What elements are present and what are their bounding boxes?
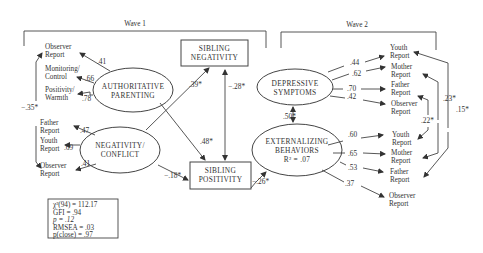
svg-text:−.26*: −.26* bbox=[252, 177, 269, 186]
svg-text:.78: .78 bbox=[82, 94, 92, 103]
svg-text:SIBLING: SIBLING bbox=[205, 166, 237, 175]
svg-text:Report: Report bbox=[389, 200, 409, 208]
svg-text:NEGATIVITY: NEGATIVITY bbox=[191, 53, 239, 62]
svg-text:Report: Report bbox=[391, 71, 411, 79]
svg-text:Observer: Observer bbox=[40, 162, 67, 170]
svg-text:NEGATIVITY/: NEGATIVITY/ bbox=[95, 141, 145, 150]
svg-text:.50*: .50* bbox=[283, 112, 296, 121]
svg-text:Report: Report bbox=[40, 145, 60, 153]
svg-text:EXTERNALIZING: EXTERNALIZING bbox=[265, 137, 328, 146]
svg-text:−.18*: −.18* bbox=[164, 171, 181, 180]
svg-text:.47: .47 bbox=[80, 126, 90, 135]
p-close: p(close) = .97 bbox=[53, 231, 93, 239]
svg-text:R² = .07: R² = .07 bbox=[284, 155, 311, 164]
svg-text:Observer: Observer bbox=[45, 43, 72, 51]
svg-text:Mother: Mother bbox=[391, 149, 413, 157]
sem-path-diagram: Wave 1 Wave 2 AUTHORITATIVE PARENTING NE… bbox=[0, 0, 483, 253]
svg-text:.37: .37 bbox=[345, 179, 355, 188]
svg-text:Positivity/: Positivity/ bbox=[45, 86, 75, 94]
svg-text:Father: Father bbox=[391, 81, 410, 89]
svg-text:PARENTING: PARENTING bbox=[111, 91, 155, 100]
svg-text:BEHAVIORS: BEHAVIORS bbox=[275, 146, 319, 155]
svg-text:Father: Father bbox=[390, 168, 409, 176]
depressive-indicators: Youth Report Mother Report Father Report… bbox=[328, 44, 418, 116]
svg-text:.39*: .39* bbox=[189, 80, 202, 89]
svg-text:Observer: Observer bbox=[391, 100, 418, 108]
svg-text:POSITIVITY: POSITIVITY bbox=[199, 175, 243, 184]
svg-text:.53: .53 bbox=[348, 163, 358, 172]
svg-text:Report: Report bbox=[390, 52, 410, 60]
svg-text:SIBLING: SIBLING bbox=[199, 44, 231, 53]
svg-text:Report: Report bbox=[40, 170, 60, 178]
svg-text:Control: Control bbox=[45, 73, 67, 81]
svg-text:.48*: .48* bbox=[200, 137, 213, 146]
observer-error-correlation: −.35* bbox=[21, 53, 42, 168]
svg-text:.22*: .22* bbox=[421, 116, 434, 125]
wave-2-error-correlations: .23* .15* .22* bbox=[414, 52, 469, 177]
svg-text:AUTHORITATIVE: AUTHORITATIVE bbox=[102, 82, 165, 91]
sibling-positivity-box: SIBLING POSITIVITY bbox=[190, 162, 251, 189]
svg-text:SYMPTOMS: SYMPTOMS bbox=[274, 88, 317, 97]
svg-text:−.35*: −.35* bbox=[21, 103, 38, 112]
svg-text:.65: .65 bbox=[348, 149, 358, 158]
sibling-negativity-box: SIBLING NEGATIVITY bbox=[181, 40, 248, 66]
svg-text:.42: .42 bbox=[347, 92, 357, 101]
svg-text:.41: .41 bbox=[81, 159, 91, 168]
svg-text:Youth: Youth bbox=[40, 137, 58, 145]
depressive-symptoms-construct: DEPRESSIVE SYMPTOMS bbox=[257, 69, 333, 105]
svg-text:.44: .44 bbox=[350, 58, 360, 67]
svg-text:Report: Report bbox=[391, 157, 411, 165]
svg-text:Warmth: Warmth bbox=[45, 94, 68, 102]
svg-text:−.28*: −.28* bbox=[228, 82, 245, 91]
svg-text:.23*: .23* bbox=[443, 94, 456, 103]
svg-text:.69: .69 bbox=[64, 143, 74, 152]
externalizing-behaviors-construct: EXTERNALIZING BEHAVIORS R² = .07 bbox=[252, 124, 342, 176]
svg-text:Monitoring/: Monitoring/ bbox=[45, 65, 80, 73]
svg-text:Report: Report bbox=[390, 176, 410, 184]
svg-text:.15*: .15* bbox=[456, 105, 469, 114]
svg-text:Youth: Youth bbox=[392, 131, 410, 139]
svg-text:Report: Report bbox=[45, 51, 65, 59]
svg-text:.66: .66 bbox=[85, 74, 95, 83]
svg-text:.62: .62 bbox=[352, 69, 362, 78]
wave-2-label: Wave 2 bbox=[346, 21, 368, 29]
wave-2-bracket: Wave 2 bbox=[281, 21, 436, 50]
svg-text:.60: .60 bbox=[348, 130, 358, 139]
svg-text:Father: Father bbox=[40, 119, 59, 127]
svg-text:Observer: Observer bbox=[389, 192, 416, 200]
svg-text:DEPRESSIVE: DEPRESSIVE bbox=[272, 79, 319, 88]
svg-text:Report: Report bbox=[391, 108, 411, 116]
svg-text:Report: Report bbox=[40, 127, 60, 135]
authoritative-parenting-construct: AUTHORITATIVE PARENTING bbox=[93, 68, 173, 112]
fit-statistics-box: χ²(94) = 112.17 GFI = .94 p = .12 RMSEA … bbox=[48, 199, 118, 239]
wave-1-label: Wave 1 bbox=[124, 20, 146, 28]
svg-text:Report: Report bbox=[392, 139, 412, 147]
svg-text:CONFLICT: CONFLICT bbox=[101, 150, 140, 159]
svg-text:.41: .41 bbox=[97, 57, 107, 66]
svg-text:Youth: Youth bbox=[390, 44, 408, 52]
svg-text:Report: Report bbox=[391, 89, 411, 97]
svg-text:Mother: Mother bbox=[391, 63, 413, 71]
